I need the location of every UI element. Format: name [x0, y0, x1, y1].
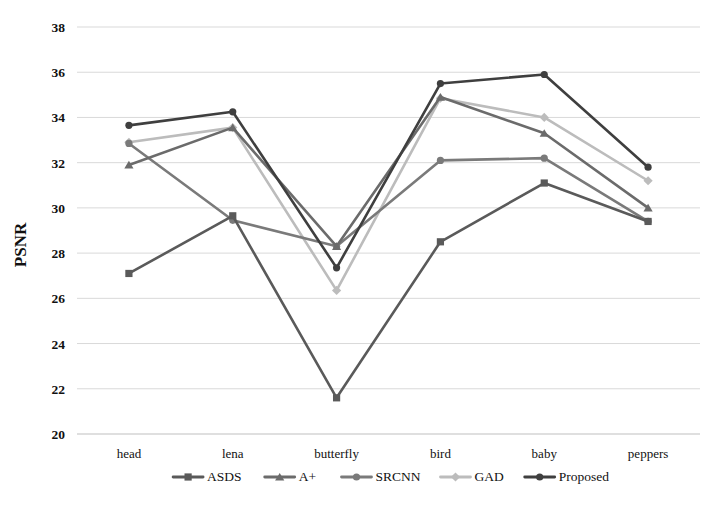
- legend-label: ASDS: [207, 469, 242, 484]
- data-point: [644, 164, 651, 171]
- data-point: [541, 179, 548, 186]
- psnr-line-chart: 20222426283032343638 headlenabutterflybi…: [0, 0, 716, 514]
- y-tick-label: 38: [52, 20, 66, 35]
- data-point: [125, 140, 132, 147]
- data-point: [333, 264, 340, 271]
- data-point: [229, 212, 236, 219]
- data-point: [644, 218, 651, 225]
- series-asds: [125, 179, 651, 401]
- legend-item-a-[interactable]: A+: [265, 469, 316, 484]
- legend-item-srcnn[interactable]: SRCNN: [342, 469, 421, 484]
- legend-item-proposed[interactable]: Proposed: [525, 469, 609, 484]
- x-axis-categories: headlenabutterflybirdbabypeppers: [117, 446, 669, 461]
- legend: ASDSA+SRCNNGADProposed: [173, 469, 609, 484]
- y-tick-label: 30: [52, 201, 66, 216]
- y-axis-title: PSNR: [11, 222, 30, 267]
- legend-marker: [536, 473, 543, 480]
- y-tick-label: 24: [52, 337, 66, 352]
- legend-marker: [451, 472, 460, 481]
- y-tick-label: 22: [52, 382, 66, 397]
- x-category-label: butterfly: [314, 446, 359, 461]
- legend-item-asds[interactable]: ASDS: [173, 469, 242, 484]
- data-point: [437, 238, 444, 245]
- data-point: [541, 155, 548, 162]
- chart-canvas: 20222426283032343638 headlenabutterflybi…: [0, 0, 716, 514]
- x-category-label: lena: [222, 446, 244, 461]
- series-line: [129, 98, 648, 290]
- x-category-label: head: [117, 446, 142, 461]
- y-tick-label: 34: [52, 110, 66, 125]
- data-series: [124, 71, 652, 402]
- y-tick-label: 28: [52, 246, 66, 261]
- legend-label: GAD: [475, 469, 504, 484]
- y-tick-label: 32: [52, 156, 66, 171]
- series-line: [129, 97, 648, 246]
- legend-label: Proposed: [559, 469, 609, 484]
- legend-marker: [185, 473, 192, 480]
- legend-label: A+: [299, 469, 316, 484]
- data-point: [125, 122, 132, 129]
- data-point: [125, 270, 132, 277]
- legend-label: SRCNN: [376, 469, 421, 484]
- x-category-label: baby: [532, 446, 558, 461]
- y-tick-label: 26: [52, 291, 66, 306]
- y-axis-ticks: 20222426283032343638: [52, 20, 66, 442]
- x-category-label: peppers: [628, 446, 668, 461]
- y-axis-title-text: PSNR: [11, 222, 30, 267]
- data-point: [333, 394, 340, 401]
- data-point: [541, 71, 548, 78]
- gridlines: [77, 27, 700, 434]
- data-point: [229, 108, 236, 115]
- x-category-label: bird: [430, 446, 451, 461]
- legend-marker: [353, 473, 360, 480]
- data-point: [437, 157, 444, 164]
- legend-item-gad[interactable]: GAD: [441, 469, 504, 484]
- y-tick-label: 20: [52, 427, 66, 442]
- y-tick-label: 36: [52, 65, 66, 80]
- series-line: [129, 183, 648, 398]
- data-point: [437, 80, 444, 87]
